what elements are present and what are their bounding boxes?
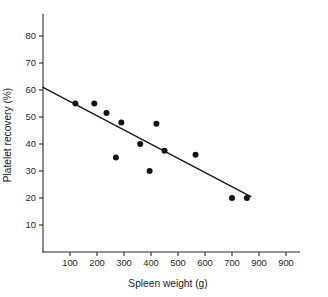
- x-tick-label-0: 100: [62, 257, 78, 268]
- data-point-1: [91, 101, 97, 107]
- y-tick-label-70: 70: [26, 57, 36, 68]
- plot-canvas: 1020304050607080 10020030040050060070090…: [0, 0, 328, 297]
- x-tick-label-4: 500: [170, 257, 186, 268]
- y-tick-label-60: 60: [26, 84, 36, 95]
- x-tick-label-3: 400: [143, 257, 159, 268]
- data-point-10: [229, 195, 235, 201]
- data-point-4: [118, 119, 124, 125]
- x-tick-label-7: 900: [251, 257, 267, 268]
- y-axis: 1020304050607080: [26, 14, 43, 252]
- x-axis-title: Spleen weight (g): [128, 278, 207, 289]
- data-point-8: [162, 148, 168, 154]
- data-point-9: [193, 152, 199, 158]
- x-tick-label-8: 900: [278, 257, 294, 268]
- data-point-11: [244, 195, 250, 201]
- data-point-3: [113, 155, 119, 161]
- data-point-2: [103, 110, 109, 116]
- data-point-7: [153, 121, 159, 127]
- data-point-5: [137, 141, 143, 147]
- data-points: [72, 101, 249, 202]
- y-tick-label-50: 50: [26, 111, 36, 122]
- x-axis: 100200300400500600700900900: [43, 252, 300, 268]
- scatter-plot-figure: 1020304050607080 10020030040050060070090…: [0, 0, 328, 297]
- x-tick-label-5: 600: [197, 257, 213, 268]
- data-point-6: [147, 168, 153, 174]
- y-axis-title: Platelet recovery (%): [2, 88, 13, 183]
- x-tick-label-2: 300: [116, 257, 132, 268]
- x-tick-label-1: 200: [89, 257, 105, 268]
- y-tick-label-20: 20: [26, 192, 36, 203]
- y-tick-label-30: 30: [26, 165, 36, 176]
- y-tick-label-10: 10: [26, 219, 36, 230]
- x-tick-label-6: 700: [224, 257, 240, 268]
- y-tick-label-80: 80: [26, 30, 36, 41]
- data-point-0: [72, 101, 78, 107]
- y-tick-label-40: 40: [26, 138, 36, 149]
